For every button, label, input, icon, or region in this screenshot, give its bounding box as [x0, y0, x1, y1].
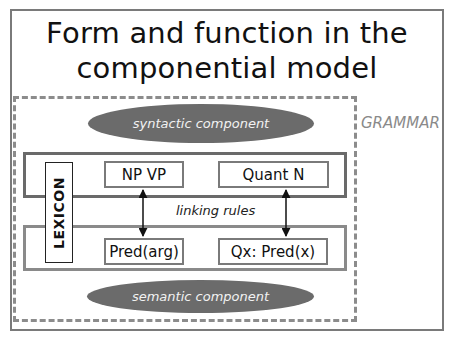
semantic-component-ellipse: semantic component [87, 280, 314, 313]
semantic-component-label: semantic component [132, 289, 269, 304]
linking-rules-label: linking rules [176, 203, 255, 218]
